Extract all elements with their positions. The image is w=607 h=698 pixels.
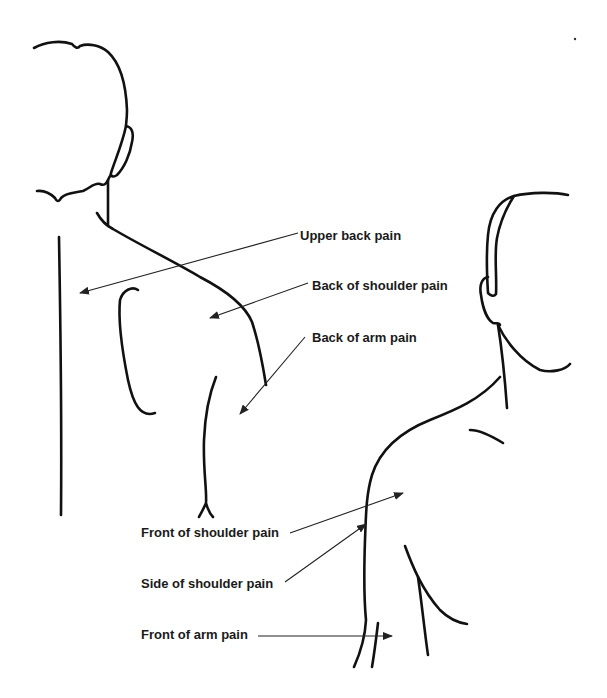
front-view-figure	[354, 193, 570, 667]
front-collarbone	[470, 430, 503, 443]
label-side-of-shoulder-pain: Side of shoulder pain	[141, 577, 273, 591]
back-view-figure	[34, 42, 266, 517]
label-upper-back-pain: Upper back pain	[300, 229, 401, 243]
arrow-side-shoulder	[285, 524, 366, 582]
back-ear-icon	[111, 126, 133, 176]
arrow-back-shoulder	[210, 283, 308, 318]
back-hairline	[37, 175, 111, 201]
front-hair-outline	[487, 196, 514, 296]
label-back-of-arm-pain: Back of arm pain	[312, 331, 417, 345]
back-arm-line	[199, 377, 216, 517]
back-head-outline	[34, 42, 127, 126]
label-front-of-shoulder-pain: Front of shoulder pain	[141, 526, 279, 540]
back-scapula-curve	[119, 288, 155, 413]
back-shoulder-curve	[97, 213, 266, 385]
front-arm-line	[372, 623, 378, 667]
front-shoulder-outline	[354, 377, 500, 667]
front-head-outline	[514, 193, 568, 196]
arrow-upper-back	[80, 233, 298, 293]
arrow-back-arm	[240, 337, 305, 414]
label-front-of-arm-pain: Front of arm pain	[141, 628, 248, 642]
front-jaw-curve	[498, 325, 570, 371]
front-chest-line	[405, 546, 467, 624]
stray-dot	[574, 38, 576, 40]
back-torso-left-line	[59, 237, 61, 515]
label-back-of-shoulder-pain: Back of shoulder pain	[312, 279, 448, 293]
shoulder-pain-diagram	[0, 0, 607, 698]
arrow-front-shoulder	[290, 493, 403, 533]
